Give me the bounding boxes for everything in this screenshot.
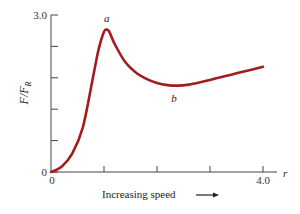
x-tick-label: 0 (49, 174, 55, 186)
annotation-a: a (104, 12, 110, 24)
x-axis-arrow-icon (196, 193, 219, 198)
x-axis-symbol: r (283, 167, 288, 179)
chart: 03.004.0 ab F/FR Increasing speed r (0, 0, 300, 214)
x-axis-label: Increasing speed (102, 188, 176, 200)
data-line (51, 29, 263, 172)
y-axis-label: F/FR (17, 81, 33, 105)
y-tick-label: 3.0 (33, 9, 47, 21)
y-tick-label: 0 (42, 166, 48, 178)
annotation-b: b (171, 92, 177, 104)
annotations: ab (104, 12, 177, 105)
x-tick-label: 4.0 (256, 174, 270, 186)
